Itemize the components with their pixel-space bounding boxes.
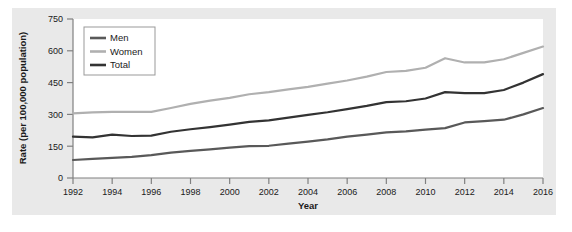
x-tick-label: 1996 xyxy=(141,187,161,197)
line-chart: 0150300450600750 19921994199619982000200… xyxy=(0,0,572,232)
x-tick-label: 2002 xyxy=(259,187,279,197)
y-tick-label: 300 xyxy=(48,110,63,120)
x-tick-label: 1994 xyxy=(102,187,122,197)
x-tick-label: 2012 xyxy=(455,187,475,197)
x-tick-label: 2006 xyxy=(337,187,357,197)
x-tick-label: 2004 xyxy=(298,187,318,197)
y-tick-label: 150 xyxy=(48,142,63,152)
figure-container: 0150300450600750 19921994199619982000200… xyxy=(0,0,572,232)
y-tick-label: 0 xyxy=(58,173,63,183)
legend-label-men: Men xyxy=(110,32,128,43)
x-tick-label: 1992 xyxy=(63,187,83,197)
x-tick-label: 2014 xyxy=(494,187,514,197)
x-tick-label: 2008 xyxy=(376,187,396,197)
y-tick-label: 600 xyxy=(48,46,63,56)
x-axis-ticks: 1992199419961998200020022004200620082010… xyxy=(63,178,553,197)
chart-legend: MenWomenTotal xyxy=(84,27,155,75)
y-tick-label: 450 xyxy=(48,78,63,88)
x-axis-title: Year xyxy=(298,200,318,211)
x-tick-label: 2016 xyxy=(533,187,553,197)
x-tick-label: 1998 xyxy=(180,187,200,197)
x-tick-label: 2000 xyxy=(220,187,240,197)
legend-label-women: Women xyxy=(110,46,143,57)
y-axis-ticks: 0150300450600750 xyxy=(48,14,73,183)
x-tick-label: 2010 xyxy=(415,187,435,197)
legend-label-total: Total xyxy=(110,59,130,70)
y-axis-title: Rate (per 100,000 population) xyxy=(17,32,28,165)
y-tick-label: 750 xyxy=(48,14,63,24)
